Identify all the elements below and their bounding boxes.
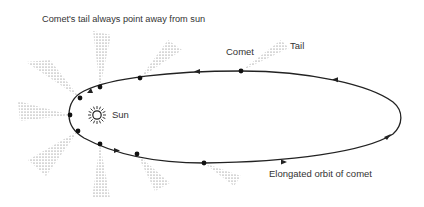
arrow-icon — [281, 160, 287, 165]
tail-icon — [18, 101, 70, 121]
sun-label: Sun — [112, 110, 129, 120]
comet-icon — [138, 76, 143, 81]
tail-icon — [140, 40, 182, 78]
sun-icon — [88, 106, 106, 124]
comet-icon — [76, 129, 81, 134]
tail-icon — [93, 31, 111, 87]
arrow-icon — [384, 134, 391, 140]
comet-icon — [78, 96, 83, 101]
tail-icon — [92, 144, 110, 198]
comet-label: Comet — [226, 47, 254, 57]
tail-label: Tail — [290, 41, 304, 51]
arrow-icon — [332, 77, 338, 82]
comet-icon — [135, 152, 140, 157]
diagram-title: Comet's tail always point away from sun — [42, 15, 205, 24]
comet-icon — [98, 142, 103, 147]
comet-orbit-diagram: Comet's tail always point away from sun … — [0, 0, 424, 207]
orbit-label: Elongated orbit of comet — [269, 169, 372, 179]
tail-icon — [28, 131, 78, 176]
comet-icon — [98, 85, 103, 90]
tail-icon — [204, 163, 241, 186]
arrow-icon — [194, 69, 200, 74]
comet-icon — [202, 161, 207, 166]
tail-icon — [26, 60, 80, 98]
comet-icon — [68, 113, 73, 118]
comet-icon — [239, 69, 244, 74]
